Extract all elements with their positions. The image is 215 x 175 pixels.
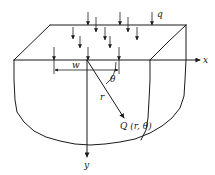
body-outline xyxy=(14,25,186,145)
width-label-w: w xyxy=(72,60,80,70)
load-label-q: q xyxy=(157,9,163,19)
load-arrows xyxy=(54,12,152,60)
y-axis-label: y xyxy=(83,160,90,170)
x-axis-label: x xyxy=(203,55,208,65)
surface-right-edge xyxy=(150,25,186,60)
angle-label-theta: θ xyxy=(110,74,116,84)
surface-left-edge xyxy=(14,25,50,60)
point-q-label: Q (r, θ) xyxy=(120,121,152,131)
body-left-side xyxy=(14,25,186,145)
radius-label-r: r xyxy=(100,92,105,102)
radius-vector xyxy=(87,60,124,118)
half-space-load-diagram: q x y w r θ Q (r, θ) xyxy=(0,0,215,175)
surface-outline xyxy=(14,25,186,60)
